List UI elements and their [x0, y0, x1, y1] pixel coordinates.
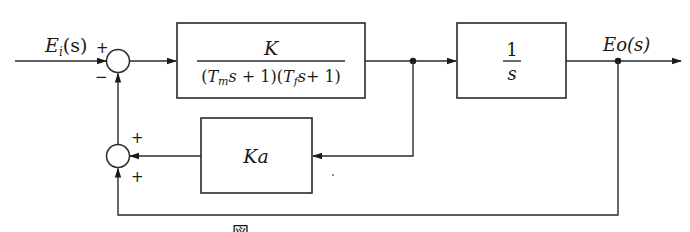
sum2-plus-sign-top: + [131, 129, 144, 147]
integrator-numerator: 1 [506, 39, 517, 60]
plant-numerator: K [263, 37, 280, 59]
summing-junction-2 [107, 145, 130, 168]
summing-junction-1 [107, 50, 130, 73]
integrator-denominator: s [507, 63, 516, 84]
figure-caption: 図 ── ── ── ── ── ── ─ ── ── ── ── ── [232, 223, 550, 232]
feedback-gain-label: Ka [242, 145, 269, 167]
output-label: Eo(s) [602, 34, 650, 55]
block-diagram: Ei(s) + − K (Tms + 1)(Tfs+ 1) 1 s Eo(s) … [0, 0, 690, 232]
sum1-minus-sign: − [95, 68, 108, 86]
stray-mark [332, 174, 334, 176]
input-label: Ei(s) [44, 34, 87, 59]
sum2-plus-sign-bottom: + [131, 168, 144, 186]
sum1-plus-sign: + [96, 39, 109, 57]
